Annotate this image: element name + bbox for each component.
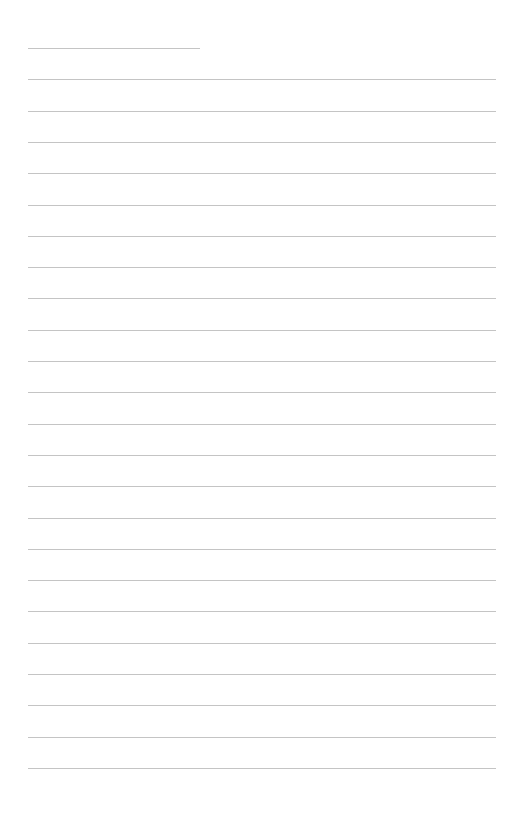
ruled-line (28, 580, 496, 581)
ruled-line (28, 705, 496, 706)
ruled-line (28, 361, 496, 362)
ruled-line (28, 392, 496, 393)
ruled-line (28, 142, 496, 143)
ruled-line (28, 205, 496, 206)
ruled-line (28, 549, 496, 550)
ruled-line (28, 424, 496, 425)
ruled-line (28, 486, 496, 487)
ruled-line (28, 737, 496, 738)
ruled-line (28, 236, 496, 237)
ruled-line (28, 330, 496, 331)
ruled-line (28, 674, 496, 675)
ruled-line (28, 455, 496, 456)
title-line (28, 48, 200, 49)
ruled-line (28, 768, 496, 769)
ruled-line (28, 518, 496, 519)
ruled-line (28, 79, 496, 80)
ruled-line (28, 611, 496, 612)
ruled-line (28, 267, 496, 268)
ruled-line (28, 111, 496, 112)
ruled-line (28, 298, 496, 299)
ruled-line (28, 173, 496, 174)
ruled-line (28, 643, 496, 644)
